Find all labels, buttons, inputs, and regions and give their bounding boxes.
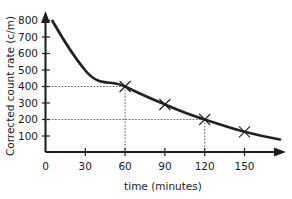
x-tick-label-120: 120 xyxy=(195,160,215,172)
x-tick-label-60: 60 xyxy=(118,160,131,172)
x-tick-label-150: 150 xyxy=(234,160,254,172)
y-tick-label-200: 200 xyxy=(18,113,38,125)
x-axis-title: time (minutes) xyxy=(124,180,202,192)
y-tick-label-300: 300 xyxy=(18,97,38,109)
x-tick-label-90: 90 xyxy=(158,160,171,172)
y-tick-label-600: 600 xyxy=(18,47,38,59)
y-axis-title: Corrected count rate (c/m) xyxy=(4,16,16,156)
y-tick-label-400: 400 xyxy=(18,80,38,92)
arrow-right-icon xyxy=(274,148,286,157)
construction-guide-lines xyxy=(46,87,205,153)
y-tick-label-700: 700 xyxy=(18,31,38,43)
chart-canvas: 800 700 600 500 400 300 200 100 0 30 60 … xyxy=(0,0,292,199)
arrow-up-icon xyxy=(41,11,50,23)
data-point-marker xyxy=(159,99,170,110)
decay-curve-chart: 800 700 600 500 400 300 200 100 0 30 60 … xyxy=(0,0,292,199)
y-tick-label-100: 100 xyxy=(18,130,38,142)
y-tick-label-500: 500 xyxy=(18,64,38,76)
x-tick-label-0: 0 xyxy=(42,160,49,172)
decay-curve-path xyxy=(53,21,281,140)
y-tick-label-800: 800 xyxy=(18,14,38,26)
x-tick-label-30: 30 xyxy=(79,160,92,172)
